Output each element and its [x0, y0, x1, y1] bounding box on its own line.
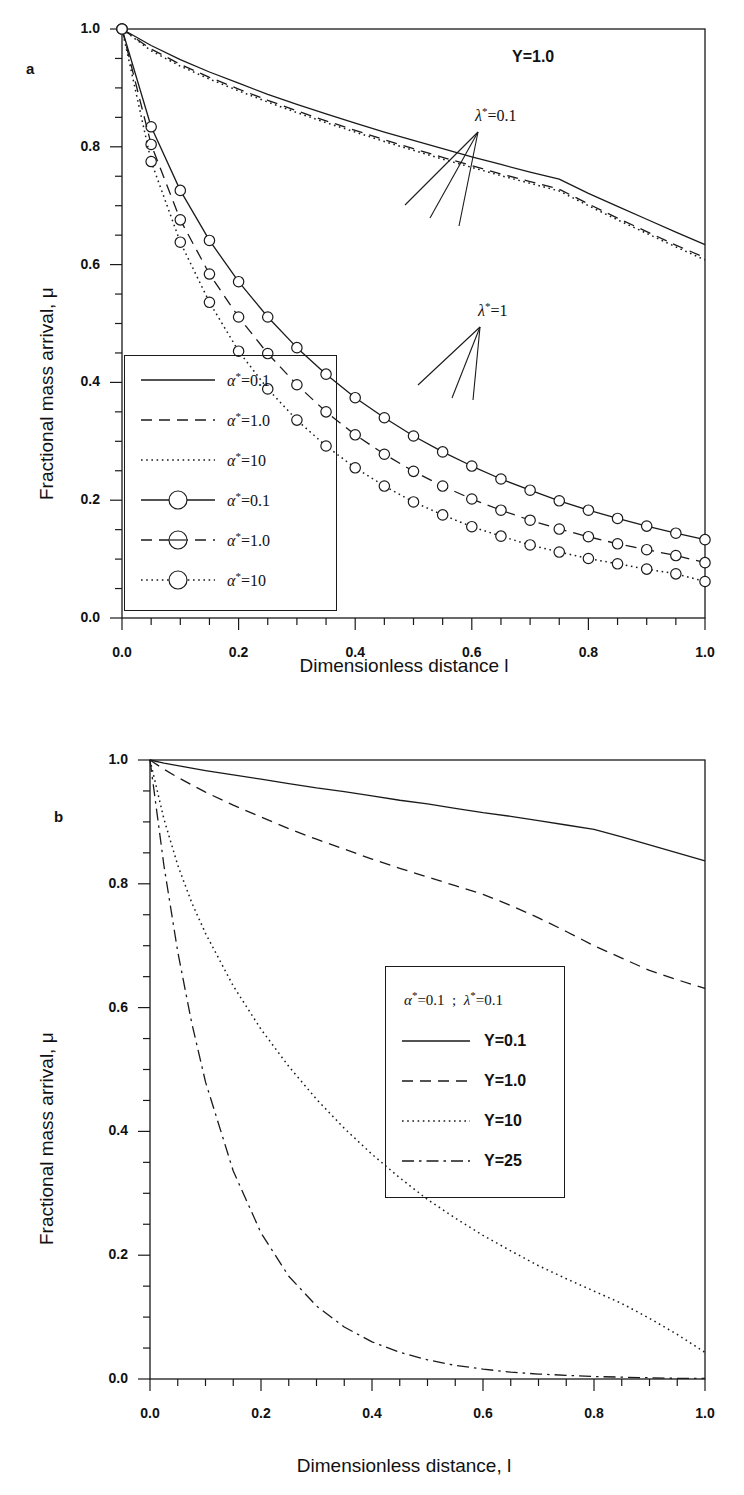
chart-b-ytick-label: 0.0 [66, 1370, 128, 1386]
legend-b-item[interactable]: Y=10 [400, 1109, 522, 1133]
legend-a-item-label: α*=0.1 [227, 370, 270, 390]
legend-b-item-label: Y=10 [484, 1112, 522, 1130]
plot-area-a [0, 0, 744, 700]
chart-a-xtick-label: 0.0 [92, 644, 152, 660]
chart-b-xtick-label: 0.8 [564, 1405, 624, 1421]
legend-b-item-label: Y=25 [484, 1152, 522, 1170]
panel-b: b Fractional mass arrival, μ Dimensionle… [0, 700, 744, 1495]
chart-a-ytick-label: 0.2 [38, 491, 100, 507]
chart-b-ytick-label: 0.8 [66, 875, 128, 891]
chart-b-ytick-label: 0.2 [66, 1246, 128, 1262]
chart-b-series-line [150, 760, 705, 988]
legend-a-item[interactable]: α*=0.1 [139, 488, 270, 512]
legend-b-line-sample [400, 1150, 472, 1172]
legend-b-item[interactable]: Y=0.1 [400, 1029, 526, 1053]
legend-a-item[interactable]: α*=10 [139, 448, 266, 472]
legend-b: α*=0.1 ; λ*=0.1Y=0.1Y=1.0Y=10Y=25 [385, 966, 565, 1198]
legend-b-item[interactable]: Y=25 [400, 1149, 522, 1173]
legend-b-item[interactable]: Y=1.0 [400, 1069, 526, 1093]
chart-a-ytick-label: 0.8 [38, 138, 100, 154]
legend-a-item[interactable]: α*=10 [139, 568, 266, 592]
legend-a-item[interactable]: α*=1.0 [139, 528, 270, 552]
legend-a-line-sample [139, 569, 217, 591]
legend-a-item-label: α*=0.1 [227, 490, 270, 510]
legend-b-header: α*=0.1 ; λ*=0.1 [404, 989, 503, 1009]
legend-a-item-label: α*=1.0 [227, 410, 270, 430]
chart-a-series-line [122, 29, 705, 245]
legend-b-item-label: Y=0.1 [484, 1032, 526, 1050]
legend-a-line-sample [139, 449, 217, 471]
chart-b-xtick-label: 0.2 [231, 1405, 291, 1421]
chart-a-annotation-leaders [405, 132, 480, 400]
legend-a-line-sample [139, 529, 217, 551]
legend-b-line-sample [400, 1110, 472, 1132]
chart-a-ytick-label: 1.0 [38, 20, 100, 36]
legend-a-item[interactable]: α*=1.0 [139, 408, 270, 432]
chart-b-series-line [150, 760, 705, 861]
panel-a: a Y=1.0 λ*=0.1 λ*=1 Fractional mass arri… [0, 0, 744, 700]
legend-b-line-sample [400, 1030, 472, 1052]
legend-a-item-label: α*=1.0 [227, 530, 270, 550]
legend-a-item-label: α*=10 [227, 570, 266, 590]
chart-b-xtick-label: 0.6 [453, 1405, 513, 1421]
chart-a-xtick-label: 0.4 [325, 644, 385, 660]
legend-a-line-sample [139, 489, 217, 511]
legend-a-item-label: α*=10 [227, 450, 266, 470]
chart-b-xtick-label: 0.0 [120, 1405, 180, 1421]
legend-b-item-label: Y=1.0 [484, 1072, 526, 1090]
chart-b-ytick-label: 0.4 [66, 1122, 128, 1138]
chart-b-ytick-label: 1.0 [66, 751, 128, 767]
chart-b-xtick-label: 0.4 [342, 1405, 402, 1421]
legend-b-line-sample [400, 1070, 472, 1092]
legend-a: α*=0.1α*=1.0α*=10α*=0.1α*=1.0α*=10 [124, 355, 337, 611]
legend-a-line-sample [139, 409, 217, 431]
chart-a-xtick-label: 0.6 [442, 644, 502, 660]
chart-a-xtick-label: 1.0 [675, 644, 735, 660]
chart-a-series-line [122, 29, 705, 260]
legend-a-item[interactable]: α*=0.1 [139, 368, 270, 392]
chart-a-ytick-label: 0.4 [38, 373, 100, 389]
chart-a-xtick-label: 0.8 [558, 644, 618, 660]
chart-a-ytick-label: 0.0 [38, 609, 100, 625]
chart-b-ytick-label: 0.6 [66, 999, 128, 1015]
chart-a-series-line [122, 29, 705, 258]
figure-container: a Y=1.0 λ*=0.1 λ*=1 Fractional mass arri… [0, 0, 744, 1495]
legend-a-line-sample [139, 369, 217, 391]
chart-a-xtick-label: 0.2 [209, 644, 269, 660]
chart-b-xtick-label: 1.0 [675, 1405, 735, 1421]
chart-a-ytick-label: 0.6 [38, 256, 100, 272]
